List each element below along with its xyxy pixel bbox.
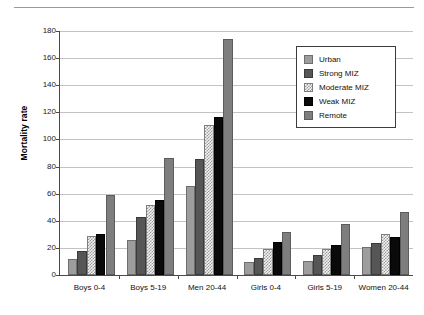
bar-group — [68, 31, 115, 275]
legend-label: Urban — [319, 55, 341, 64]
bar[interactable] — [146, 205, 155, 275]
y-tick-label: 140 — [43, 81, 56, 89]
x-tick-label: Girls 5-19 — [295, 283, 354, 293]
legend-swatch-icon — [304, 111, 313, 120]
x-tick-mark — [295, 275, 296, 279]
legend-swatch-icon — [304, 83, 313, 92]
legend-item[interactable]: Moderate MIZ — [304, 80, 389, 94]
x-tick-label: Boys 5-19 — [119, 283, 178, 293]
legend-item[interactable]: Remote — [304, 108, 389, 122]
y-tick-label: 180 — [43, 27, 56, 35]
bar[interactable] — [341, 224, 350, 276]
legend-label: Strong MIZ — [319, 69, 359, 78]
bar[interactable] — [390, 237, 399, 275]
x-tick-label: Women 20-44 — [354, 283, 413, 293]
bar[interactable] — [371, 243, 380, 275]
legend-swatch-icon — [304, 55, 313, 64]
bar[interactable] — [136, 217, 145, 275]
legend-item[interactable]: Weak MIZ — [304, 94, 389, 108]
y-tick-label: 120 — [43, 108, 56, 116]
y-tick-label: 60 — [47, 190, 56, 198]
bar[interactable] — [313, 255, 322, 275]
y-tick-label: 160 — [43, 54, 56, 62]
bar[interactable] — [273, 242, 282, 275]
y-tick-label: 0 — [52, 271, 56, 279]
bar[interactable] — [263, 249, 272, 275]
bar[interactable] — [204, 125, 213, 275]
y-tick-label: 20 — [47, 244, 56, 252]
x-tick-mark — [354, 275, 355, 279]
bar[interactable] — [381, 234, 390, 275]
bar[interactable] — [322, 249, 331, 275]
y-tick-label: 100 — [43, 135, 56, 143]
legend-label: Moderate MIZ — [319, 83, 369, 92]
y-tick-label: 80 — [47, 163, 56, 171]
bar[interactable] — [164, 158, 173, 275]
bar[interactable] — [223, 39, 232, 275]
x-tick-label: Girls 0-4 — [237, 283, 296, 293]
bar-group — [127, 31, 174, 275]
bar[interactable] — [254, 258, 263, 275]
bar[interactable] — [214, 117, 223, 275]
bar[interactable] — [96, 234, 105, 275]
x-tick-label: Boys 0-4 — [60, 283, 119, 293]
y-axis-line — [59, 31, 60, 276]
bar[interactable] — [244, 262, 253, 275]
legend-label: Weak MIZ — [319, 97, 355, 106]
bar[interactable] — [106, 195, 115, 275]
bar[interactable] — [400, 212, 409, 275]
bar[interactable] — [331, 245, 340, 276]
legend-item[interactable]: Urban — [304, 52, 389, 66]
legend-swatch-icon — [304, 69, 313, 78]
x-tick-mark — [119, 275, 120, 279]
bar[interactable] — [186, 186, 195, 275]
legend-label: Remote — [319, 111, 347, 120]
bar[interactable] — [87, 236, 96, 275]
chart-legend: UrbanStrong MIZModerate MIZWeak MIZRemot… — [296, 46, 396, 128]
legend-item[interactable]: Strong MIZ — [304, 66, 389, 80]
bar[interactable] — [127, 240, 136, 275]
bar[interactable] — [77, 251, 86, 275]
bar[interactable] — [195, 159, 204, 275]
bar[interactable] — [282, 232, 291, 275]
legend-swatch-icon — [304, 97, 313, 106]
bar[interactable] — [68, 259, 77, 275]
bar[interactable] — [303, 261, 312, 275]
bar-chart-figure: Mortality rate 020406080100120140160180 … — [0, 0, 424, 315]
x-tick-mark — [237, 275, 238, 279]
x-tick-mark — [178, 275, 179, 279]
bar-group — [244, 31, 291, 275]
bar[interactable] — [362, 247, 371, 275]
y-axis-title: Mortality rate — [19, 88, 29, 178]
bar[interactable] — [155, 200, 164, 275]
bar-group — [186, 31, 233, 275]
x-tick-label: Men 20-44 — [178, 283, 237, 293]
y-tick-label: 40 — [47, 217, 56, 225]
